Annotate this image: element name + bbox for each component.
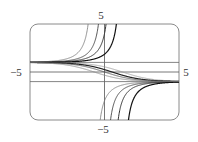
y-tick-top: 5 — [98, 9, 104, 21]
y-tick-bottom: −5 — [97, 123, 109, 135]
x-tick-left: −5 — [10, 66, 22, 78]
x-tick-right: 5 — [183, 66, 189, 78]
function-family-plot: 5 −5 −5 5 — [0, 0, 198, 142]
